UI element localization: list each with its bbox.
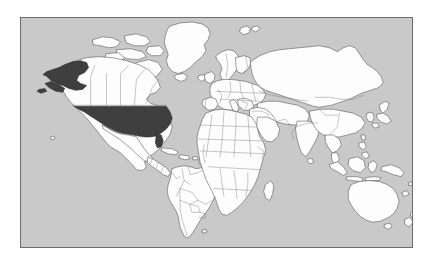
map-frame-border	[20, 17, 413, 248]
region-puerto-rico	[193, 157, 198, 160]
world-map-svg	[21, 18, 412, 247]
region-falklands	[202, 229, 207, 233]
region-taiwan	[361, 135, 365, 140]
region-lesser-sunda	[365, 177, 381, 181]
region-fiji	[409, 182, 412, 186]
world-map-figure	[20, 17, 413, 248]
region-hawaii	[51, 136, 55, 140]
